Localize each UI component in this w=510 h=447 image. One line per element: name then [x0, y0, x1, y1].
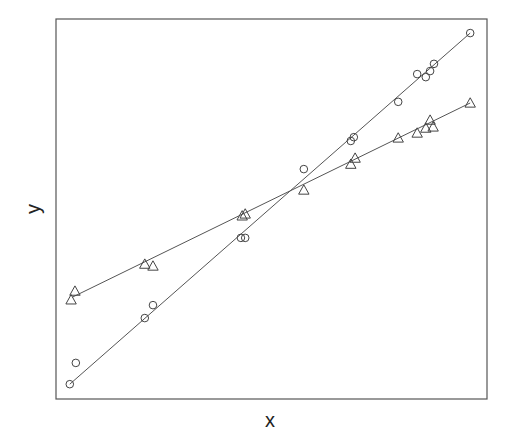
- y-axis-label: y: [22, 204, 44, 214]
- circle-marker: [149, 301, 157, 309]
- scatter-chart: x y: [0, 0, 510, 447]
- circle-marker: [430, 60, 438, 68]
- fit-lines: [70, 33, 470, 384]
- circle-marker: [241, 234, 249, 242]
- triangle-marker: [465, 98, 475, 107]
- circle-marker: [237, 234, 245, 242]
- triangles-fit-line: [72, 103, 470, 297]
- circle-marker: [413, 70, 421, 78]
- circle-marker: [72, 359, 80, 367]
- circles-fit-line: [70, 33, 470, 384]
- circle-marker: [300, 165, 308, 173]
- circle-marker: [66, 380, 74, 388]
- circle-marker: [466, 29, 474, 37]
- circle-marker: [394, 98, 402, 106]
- x-axis-label: x: [265, 409, 275, 431]
- triangle-marker: [393, 133, 403, 142]
